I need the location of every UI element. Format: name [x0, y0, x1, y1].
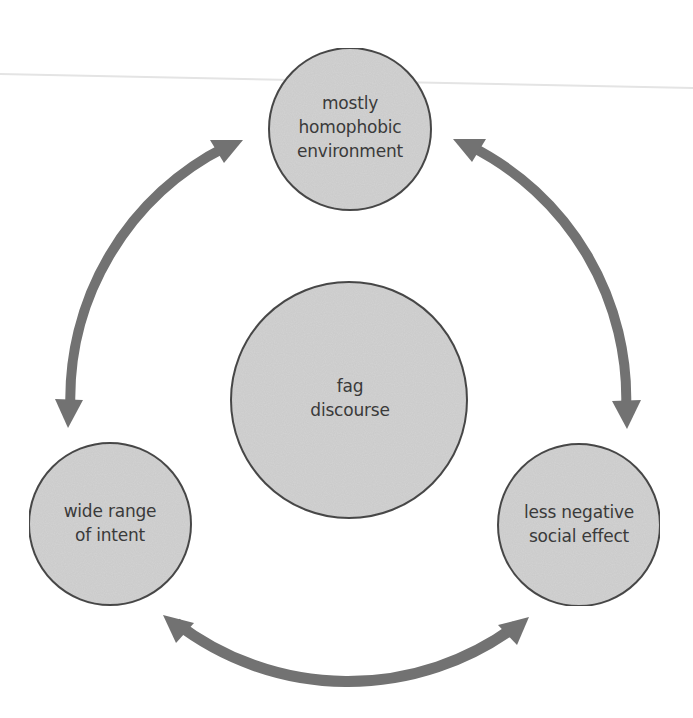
node-top-circle	[269, 48, 431, 210]
arrow-top-left	[55, 140, 243, 428]
node-left-circle	[29, 443, 191, 605]
arrowhead-icon	[612, 400, 641, 429]
arrowhead-icon	[55, 399, 83, 428]
arrow-top-right	[453, 139, 641, 429]
arrow-left-right	[163, 615, 529, 682]
diagram-canvas	[0, 0, 693, 718]
cycle-diagram: mostly homophobic environment fag discou…	[0, 0, 693, 718]
node-right-circle	[498, 444, 660, 606]
node-center-circle	[231, 282, 467, 518]
